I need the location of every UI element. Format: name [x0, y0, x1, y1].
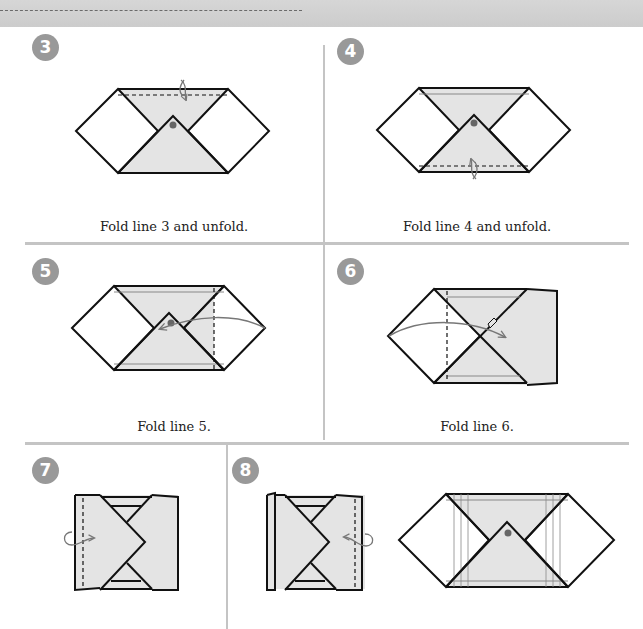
step-6-diagram	[388, 289, 557, 385]
fold-diagrams	[0, 0, 643, 629]
step-7-diagram	[65, 495, 179, 590]
step-8-folded-diagram	[267, 493, 373, 590]
step-5-diagram	[72, 286, 265, 370]
step-4-diagram	[377, 88, 570, 179]
step-3-diagram	[76, 80, 269, 173]
step-8-unfolded-diagram	[399, 494, 614, 587]
